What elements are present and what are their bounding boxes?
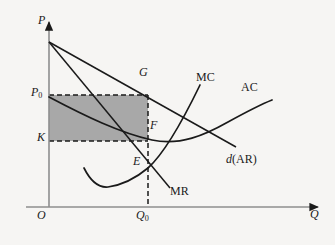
point-label-f: F [150, 119, 157, 131]
quantity-q0-label: Q0 [136, 209, 149, 223]
quantity-q0-main: Q [136, 208, 145, 222]
curve-label-demand: d(AR) [226, 153, 257, 165]
quantity-q0-subscript: 0 [145, 214, 149, 223]
economics-diagram-figure: P Q O P0 K Q0 G F E MC AC MR d(AR) [0, 0, 335, 245]
price-p0-label: P0 [31, 86, 42, 100]
curve-label-demand-suffix: (AR) [232, 152, 257, 166]
point-label-e: E [133, 155, 140, 167]
price-p0-subscript: 0 [38, 91, 42, 100]
curve-label-ac: AC [241, 81, 258, 93]
point-label-g: G [139, 66, 148, 78]
x-axis-label: Q [310, 208, 319, 220]
diagram-canvas [0, 0, 335, 245]
origin-label: O [37, 209, 46, 221]
y-axis-label: P [38, 14, 45, 26]
price-k-label: K [37, 131, 45, 143]
curve-label-mc: MC [196, 71, 215, 83]
curve-label-mr: MR [170, 185, 189, 197]
